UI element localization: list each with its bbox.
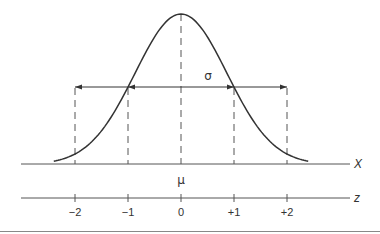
z-axis-label: z — [353, 191, 360, 205]
z-tick-label: +1 — [228, 206, 241, 218]
z-tick-label: +2 — [281, 206, 294, 218]
sigma-label: σ — [204, 69, 212, 83]
normal-distribution-diagram: X μ σ z −2−10+1+2 — [0, 0, 380, 234]
z-tick-label: 0 — [178, 206, 184, 218]
z-tick-label: −1 — [122, 206, 135, 218]
z-tick-label: −2 — [69, 206, 82, 218]
mu-label: μ — [177, 173, 185, 187]
x-axis-label: X — [353, 157, 363, 171]
